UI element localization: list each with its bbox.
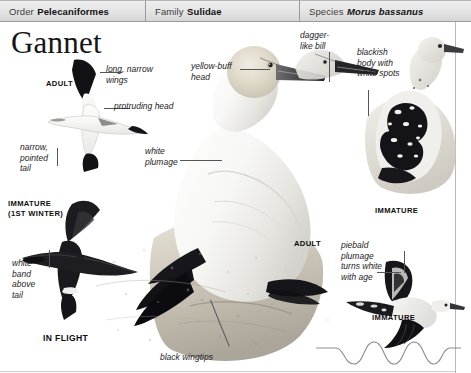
rock-texture-foreground — [96, 232, 336, 362]
caption-adult-flight: ADULT — [46, 79, 73, 89]
immature-bill — [444, 44, 464, 53]
annotation-blackish-body: blackish body with white spots — [357, 47, 400, 79]
leader-blackish-body-white-spots — [368, 90, 369, 116]
adult-head — [227, 46, 281, 98]
taxonomy-header: Order Pelecaniformes Family Sulidae Spec… — [0, 0, 471, 22]
annotation-piebald-plumage: piebald plumage turns white with age — [341, 240, 382, 282]
leader-white-band-above-tail — [49, 250, 50, 268]
annotation-long-narrow-wings: long, narrow wings — [106, 64, 153, 85]
header-cell-family: Family Sulidae — [146, 0, 300, 21]
caption-in-flight: IN FLIGHT — [43, 334, 88, 344]
caption-immature-perched: IMMATURE — [375, 206, 418, 216]
page-bottom-rule — [0, 371, 455, 372]
leader-yellow-buff-head — [240, 69, 270, 70]
immature-flight-bill — [450, 303, 465, 310]
header-cell-order: Order Pelecaniformes — [0, 0, 146, 21]
caption-adult-perched: ADULT — [294, 239, 321, 249]
species-rank-label: Species — [309, 6, 344, 17]
order-rank-label: Order — [9, 6, 34, 17]
rock-speckles — [113, 249, 329, 345]
leader-white-plumage — [180, 160, 222, 161]
annotation-white-band-above-tail: white band above tail — [12, 258, 35, 300]
undulating-flight-path-diagram — [316, 336, 461, 366]
leader-dagger-like-bill — [329, 52, 330, 82]
field-guide-page: Order Pelecaniformes Family Sulidae Spec… — [0, 0, 471, 373]
annotation-narrow-pointed-tail: narrow, pointed tail — [20, 142, 48, 174]
leader-narrow-pointed-tail — [57, 148, 58, 166]
species-name: Morus bassanus — [347, 6, 423, 17]
caption-immature-first-winter: IMMATURE (1ST WINTER) — [8, 199, 63, 218]
order-name: Pelecaniformes — [37, 6, 109, 17]
adult-flight-wings — [48, 116, 146, 134]
adult-flight-tail — [83, 154, 99, 172]
annotation-yellow-buff-head: yellow-buff head — [191, 61, 232, 82]
annotation-white-plumage: white plumage — [145, 146, 178, 167]
annotation-protruding-head: protruding head — [114, 101, 174, 112]
family-rank-label: Family — [155, 6, 184, 17]
immature-white-band-above-tail — [62, 287, 78, 294]
family-name: Sulidae — [187, 6, 222, 17]
leader-piebald-plumage-vertical — [404, 251, 405, 273]
immature-head — [418, 37, 446, 63]
header-cell-species: Species Morus bassanus — [300, 0, 471, 21]
annotation-dagger-like-bill: dagger- like bill — [300, 30, 329, 51]
caption-immature-flight: IMMATURE — [372, 313, 415, 323]
annotation-black-wingtips: black wingtips — [160, 352, 213, 363]
